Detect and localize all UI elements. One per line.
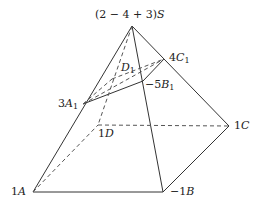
label-D-name: D xyxy=(105,127,114,140)
label-D-coef: 1 xyxy=(98,127,105,140)
label-C1-sub: 1 xyxy=(184,56,189,65)
label-C1: 4C1 xyxy=(169,52,190,65)
edge-AD xyxy=(33,125,98,192)
edge-SA xyxy=(33,26,132,192)
label-C: 1C xyxy=(234,120,249,131)
label-A-name: A xyxy=(18,185,26,198)
label-B-coef: −1 xyxy=(170,185,186,198)
label-S-name: S xyxy=(157,8,165,21)
edge-DC xyxy=(98,125,229,126)
label-B: −1B xyxy=(170,186,194,197)
label-A1-sub: 1 xyxy=(73,102,78,111)
edge-SD xyxy=(98,26,132,125)
label-A1: 3A1 xyxy=(58,98,78,111)
edge-SC xyxy=(132,26,229,126)
label-B-name: B xyxy=(186,185,194,198)
pyramid-diagram: (2 − 4 + 3)S 4C1 D1 −5B1 3A1 1D 1C 1A −1… xyxy=(0,0,262,207)
edge-BC xyxy=(163,126,229,192)
label-A1-name: A xyxy=(65,97,73,110)
label-D: 1D xyxy=(98,128,114,139)
label-D1-name: D xyxy=(121,61,130,74)
label-S-coef: (2 − 4 + 3) xyxy=(95,8,157,21)
label-A1-coef: 3 xyxy=(58,97,65,110)
label-C-name: C xyxy=(241,119,249,132)
label-D1-sub: 1 xyxy=(130,66,135,75)
label-B1-sub: 1 xyxy=(169,83,174,92)
label-S: (2 − 4 + 3)S xyxy=(95,9,165,20)
label-B1-coef: −5 xyxy=(145,78,161,91)
label-D1: D1 xyxy=(121,62,135,75)
label-C-coef: 1 xyxy=(234,119,241,132)
label-A-coef: 1 xyxy=(11,185,18,198)
label-A: 1A xyxy=(11,186,26,197)
edge-SB xyxy=(132,26,163,192)
label-C1-coef: 4 xyxy=(169,51,176,64)
pyramid-figure xyxy=(0,0,262,207)
label-B1: −5B1 xyxy=(145,79,174,92)
